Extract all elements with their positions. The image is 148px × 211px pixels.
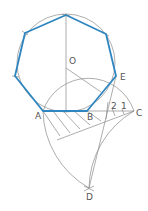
label-b: B xyxy=(87,112,93,122)
label-division-1: 1 xyxy=(121,101,127,111)
label-e: E xyxy=(120,72,126,82)
arc-centered-c xyxy=(43,111,89,188)
label-c: C xyxy=(136,108,142,118)
label-d: D xyxy=(86,192,93,202)
division-line xyxy=(57,111,134,140)
heptagon-construction-diagram: O E A B C D 2 1 xyxy=(0,0,148,211)
line-o-bisector xyxy=(66,68,101,92)
label-division-2: 2 xyxy=(111,101,117,111)
label-o: O xyxy=(69,56,76,66)
arc-centered-a xyxy=(89,111,134,188)
label-a: A xyxy=(35,111,42,121)
